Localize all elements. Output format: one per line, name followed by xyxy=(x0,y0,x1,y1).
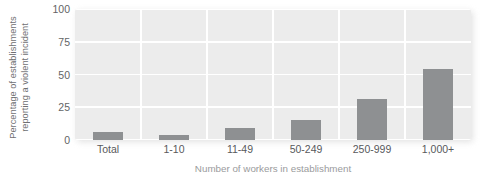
y-axis-tick-label: 50 xyxy=(58,69,70,81)
bar xyxy=(93,132,123,140)
bar xyxy=(159,135,189,140)
y-axis-title: Percentage of establishments reporting a… xyxy=(0,0,38,155)
y-axis-tick-label: 0 xyxy=(64,134,70,146)
bar xyxy=(225,128,255,140)
x-axis-tick-label: 50-249 xyxy=(290,143,323,155)
x-axis-tick-label: Total xyxy=(97,143,119,155)
x-axis-tick-label: 1-10 xyxy=(163,143,184,155)
y-axis-tick-labels: 0255075100 xyxy=(38,0,74,155)
x-axis-tick-label: 1,000+ xyxy=(422,143,454,155)
bars-group xyxy=(75,9,471,140)
bar xyxy=(423,69,453,140)
x-axis-tick-label: 11-49 xyxy=(227,143,253,155)
y-axis-tick-label: 25 xyxy=(58,101,70,113)
x-axis-tick-labels: Total1-1011-4950-249250-9991,000+ xyxy=(75,143,471,159)
x-axis-title: Number of workers in establishment xyxy=(75,163,471,174)
y-axis-title-line-1: Percentage of establishments xyxy=(8,16,20,138)
bar xyxy=(291,120,321,140)
y-axis-title-line-2: reporting a violent incident xyxy=(19,16,31,138)
y-axis-tick-label: 75 xyxy=(58,36,70,48)
plot-panel xyxy=(75,9,471,140)
bar-chart: Percentage of establishments reporting a… xyxy=(0,0,481,181)
x-axis-tick-label: 250-999 xyxy=(353,143,392,155)
y-axis-tick-label: 100 xyxy=(52,3,70,15)
bar xyxy=(357,99,387,140)
